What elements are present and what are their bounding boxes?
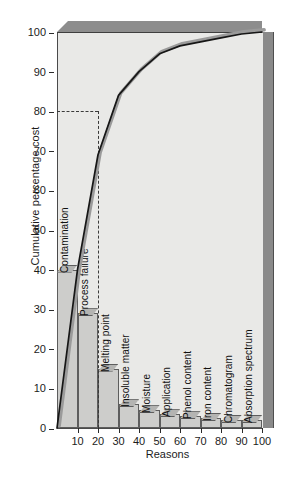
- x-tick-60: 60: [174, 435, 186, 447]
- x-axis-title: Reasons: [55, 448, 280, 460]
- x-tick-mark: [180, 428, 181, 433]
- x-tick-50: 50: [153, 435, 165, 447]
- x-axis-ticks: 102030405060708090100: [0, 0, 293, 482]
- x-tick-mark: [139, 428, 140, 433]
- x-tick-10: 10: [71, 435, 83, 447]
- pareto-chart-figure: Cumulative percentage cost 0102030405060…: [0, 0, 293, 482]
- x-tick-mark: [201, 428, 202, 433]
- x-tick-mark: [119, 428, 120, 433]
- x-tick-mark: [262, 428, 263, 433]
- x-tick-30: 30: [112, 435, 124, 447]
- x-tick-90: 90: [235, 435, 247, 447]
- x-tick-100: 100: [253, 435, 271, 447]
- x-tick-mark: [78, 428, 79, 433]
- x-tick-80: 80: [215, 435, 227, 447]
- x-tick-70: 70: [194, 435, 206, 447]
- x-tick-mark: [98, 428, 99, 433]
- x-tick-40: 40: [133, 435, 145, 447]
- x-tick-mark: [221, 428, 222, 433]
- x-tick-mark: [242, 428, 243, 433]
- x-tick-20: 20: [92, 435, 104, 447]
- x-tick-mark: [160, 428, 161, 433]
